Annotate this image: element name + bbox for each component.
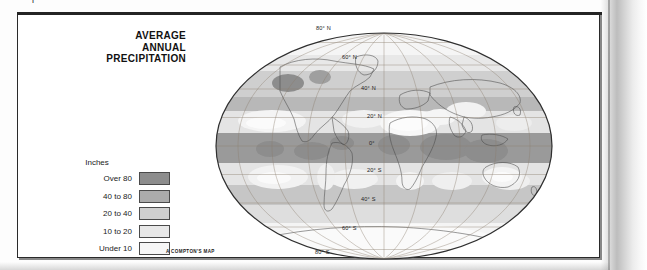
lat-label-20n: 20° N — [367, 113, 382, 119]
legend-swatch — [139, 225, 170, 238]
legend-swatch — [139, 190, 170, 203]
legend-label: Under 10 — [60, 244, 139, 253]
page-title: AVERAGE ANNUAL PRECIPITATION — [36, 30, 186, 65]
legend-label: Over 80 — [60, 174, 139, 183]
legend-item-20-to-40: 20 to 40 — [60, 206, 195, 221]
legend-item-40-to-80: 40 to 80 — [60, 189, 195, 204]
legend-item-10-to-20: 10 to 20 — [60, 224, 195, 239]
lat-label-80n: 80° N — [316, 25, 331, 31]
precipitation-bands — [214, 31, 554, 261]
legend-label: 20 to 40 — [60, 209, 139, 218]
page-bottom-shadow — [0, 262, 610, 270]
title-line-2: ANNUAL — [36, 42, 186, 54]
world-map-svg — [214, 31, 554, 261]
legend-swatch — [139, 207, 170, 220]
lat-label-60s: 60° S — [342, 225, 357, 231]
lat-label-40n: 40° N — [361, 85, 376, 91]
title-line-3: PRECIPITATION — [36, 53, 186, 65]
lat-label-80s: 80° S — [315, 249, 330, 255]
legend-label: 10 to 20 — [60, 227, 139, 236]
title-line-1: AVERAGE — [36, 30, 186, 42]
legend: Inches Over 80 40 to 80 20 to 40 10 to 2… — [60, 158, 195, 259]
legend-title: Inches — [60, 158, 134, 167]
lat-label-40s: 40° S — [361, 196, 376, 202]
legend-item-over-80: Over 80 — [60, 171, 195, 186]
lat-label-20s: 20° S — [367, 167, 382, 173]
world-map — [214, 31, 554, 261]
page-edge-shadow — [600, 0, 647, 270]
lat-label-0: 0° — [369, 140, 375, 146]
map-plate: AVERAGE ANNUAL PRECIPITATION Inches Over… — [17, 12, 600, 258]
legend-label: 40 to 80 — [60, 192, 139, 201]
legend-swatch — [139, 172, 170, 185]
cropped-text-above-plate: l — [32, 0, 42, 4]
lat-label-60n: 60° N — [342, 54, 357, 60]
map-credit: A COMPTON'S MAP — [166, 249, 215, 254]
